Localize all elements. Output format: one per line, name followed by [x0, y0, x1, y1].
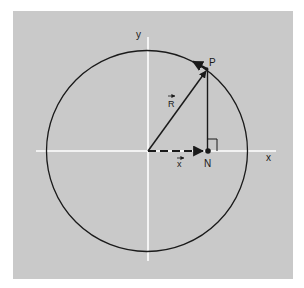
y-axis-label: y [136, 29, 141, 40]
point-n-label: N [204, 158, 211, 169]
circle-projection-diagram: y x P N R x [0, 0, 304, 288]
point-p-dot [206, 68, 209, 71]
x-axis-label: x [266, 152, 271, 163]
vector-x-letter: x [177, 159, 182, 169]
point-n-dot [205, 148, 211, 154]
point-p-label: P [209, 57, 216, 68]
vector-r-letter: R [168, 99, 175, 109]
